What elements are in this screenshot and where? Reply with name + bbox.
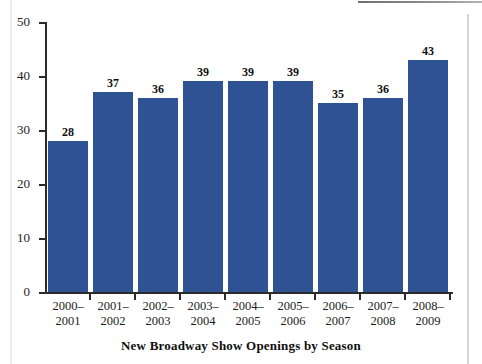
x-axis-category-label-line: 2006– (322, 299, 353, 314)
y-axis-tick-label: 40 (17, 68, 30, 84)
chart-title: New Broadway Show Openings by Season (0, 338, 482, 354)
x-axis-category-label-line: 2005 (232, 314, 263, 329)
bar (183, 81, 223, 292)
y-axis-tick (39, 22, 46, 24)
y-axis-tick-label: 0 (24, 284, 31, 300)
x-axis-category-label-line: 2002– (142, 299, 173, 314)
x-axis-line (45, 292, 453, 294)
y-axis-tick (39, 76, 46, 78)
bar (138, 98, 178, 292)
x-axis-category-label-line: 2007– (367, 299, 398, 314)
y-axis-tick-label: 10 (17, 230, 30, 246)
bar (273, 81, 313, 292)
x-axis-category-label: 2003–2004 (187, 299, 218, 329)
y-axis-tick (39, 292, 46, 294)
y-axis-tick (39, 238, 46, 240)
x-axis-category-label: 2006–2007 (322, 299, 353, 329)
x-axis-category-label-line: 2001– (97, 299, 128, 314)
bar (48, 141, 88, 292)
bar (93, 92, 133, 292)
bar-value-label: 37 (107, 76, 119, 91)
x-axis-category-label-line: 2007 (322, 314, 353, 329)
x-axis-category-label-line: 2004– (232, 299, 263, 314)
bar (318, 103, 358, 292)
bar-value-label: 35 (332, 87, 344, 102)
x-axis-category-label: 2000–2001 (52, 299, 83, 329)
bar (363, 98, 403, 292)
x-axis-category-label-line: 2006 (277, 314, 308, 329)
y-axis-tick-label: 50 (17, 14, 30, 30)
chart-page: 01020304050 283736393939353643 2000–2001… (0, 0, 482, 364)
scan-artifact-top-rule (358, 1, 482, 3)
x-axis-tick (269, 294, 271, 300)
y-axis-tick (39, 130, 46, 132)
x-axis-category-label-line: 2004 (187, 314, 218, 329)
bar (228, 81, 268, 292)
y-axis-line (45, 22, 47, 294)
x-axis-category-label: 2004–2005 (232, 299, 263, 329)
x-axis-tick (359, 294, 361, 300)
x-axis-category-label-line: 2002 (97, 314, 128, 329)
bar-value-label: 36 (152, 82, 164, 97)
x-axis-category-label-line: 2001 (52, 314, 83, 329)
x-axis-tick (134, 294, 136, 300)
x-axis-category-label: 2002–2003 (142, 299, 173, 329)
x-axis-category-label: 2001–2002 (97, 299, 128, 329)
y-axis-tick-label: 20 (17, 176, 30, 192)
bar-value-label: 36 (377, 82, 389, 97)
x-axis-category-label: 2007–2008 (367, 299, 398, 329)
x-axis-category-label-line: 2008– (412, 299, 443, 314)
bar-value-label: 39 (287, 65, 299, 80)
x-axis-category-label-line: 2009 (412, 314, 443, 329)
x-axis-tick (179, 294, 181, 300)
x-axis-category-label-line: 2008 (367, 314, 398, 329)
bar-value-label: 43 (422, 44, 434, 59)
bar-value-label: 28 (62, 125, 74, 140)
x-axis-category-label-line: 2003 (142, 314, 173, 329)
x-axis-tick (314, 294, 316, 300)
bar (408, 60, 448, 292)
y-axis-tick-label: 30 (17, 122, 30, 138)
bar-value-label: 39 (242, 65, 254, 80)
x-axis-tick (89, 294, 91, 300)
x-axis-end-tick (449, 294, 451, 300)
x-axis-tick (224, 294, 226, 300)
y-axis-tick (39, 184, 46, 186)
scan-artifact-right-edge (467, 14, 469, 364)
x-axis-category-label-line: 2003– (187, 299, 218, 314)
x-axis-category-label: 2008–2009 (412, 299, 443, 329)
bar-chart-plot-area: 01020304050 283736393939353643 2000–2001… (45, 22, 455, 294)
x-axis-tick (404, 294, 406, 300)
x-axis-category-label: 2005–2006 (277, 299, 308, 329)
x-axis-category-label-line: 2005– (277, 299, 308, 314)
bar-value-label: 39 (197, 65, 209, 80)
x-axis-category-label-line: 2000– (52, 299, 83, 314)
scan-artifact-left-edge (10, 0, 12, 364)
